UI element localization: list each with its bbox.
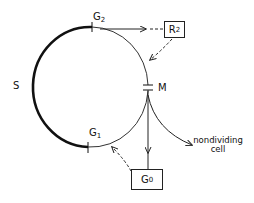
m-text: M	[158, 82, 167, 93]
r2-box: R2	[164, 21, 185, 38]
nondividing-arrow	[148, 95, 192, 145]
cell-cycle-diagram	[0, 0, 254, 203]
r2-return-arrow	[150, 39, 172, 60]
g2-text: G	[93, 11, 101, 22]
g1-sub: 1	[97, 132, 101, 140]
s-phase-arc	[33, 27, 92, 147]
g0-text: G	[141, 174, 149, 185]
g2-phase-arc	[92, 27, 148, 85]
g2-sub: 2	[101, 16, 105, 24]
label-g2: G2	[93, 12, 105, 24]
label-s: S	[13, 81, 19, 91]
g1-text: G	[89, 127, 97, 138]
s-text: S	[13, 80, 19, 91]
label-g1: G1	[89, 128, 101, 140]
g0-box: G0	[131, 169, 163, 190]
r2-text: R	[169, 24, 176, 35]
g0-return-arrow	[112, 147, 131, 171]
g0-sub: 0	[149, 176, 153, 184]
r2-sub: 2	[176, 26, 180, 34]
nondividing-cell-label: nondividing cell	[193, 136, 243, 154]
label-m: M	[158, 83, 167, 93]
cell-text: cell	[193, 145, 243, 154]
